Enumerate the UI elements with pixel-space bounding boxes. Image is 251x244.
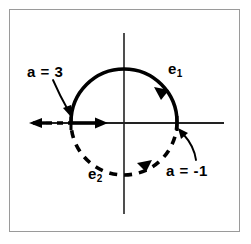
label-eigenvalue-1-base: e xyxy=(168,60,176,77)
label-eigenvalue-2-base: e xyxy=(88,165,96,182)
root-locus-plot xyxy=(0,0,251,244)
label-eigenvalue-2: e2 xyxy=(88,166,102,181)
label-a-equals-minus-1: a = -1 xyxy=(166,163,208,178)
x-axis-left-arrow xyxy=(29,118,46,128)
lower-arc-direction-arrowhead xyxy=(137,160,152,172)
label-eigenvalue-1-subscript: 1 xyxy=(177,68,183,79)
axes-group xyxy=(29,33,224,214)
a-negative-leader-arrow xyxy=(178,128,196,160)
x-axis-bold-segment-arrow xyxy=(71,118,108,129)
label-a-equals-3: a = 3 xyxy=(27,64,63,79)
a-positive-leader-arrow xyxy=(53,80,72,118)
label-eigenvalue-2-subscript: 2 xyxy=(97,173,103,184)
label-eigenvalue-1: e1 xyxy=(168,61,182,76)
figure-root: a = 3 a = -1 e1 e2 xyxy=(0,0,251,244)
